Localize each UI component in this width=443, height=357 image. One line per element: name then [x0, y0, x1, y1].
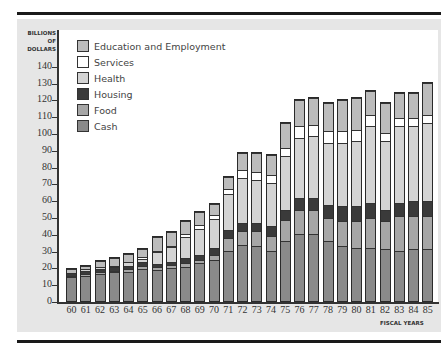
- bar-segment-cash: [138, 269, 147, 301]
- bar-segment-services: [409, 118, 418, 126]
- y-tick-label: 50: [22, 211, 52, 222]
- bar-83: [394, 92, 405, 302]
- bar-segment-cash: [124, 272, 133, 301]
- bar-61: [80, 265, 91, 302]
- legend-label: Housing: [94, 89, 133, 100]
- bar-segment-services: [324, 131, 333, 143]
- bar-segment-health: [409, 126, 418, 201]
- y-tick-label: 30: [22, 245, 52, 256]
- bar-segment-health: [153, 252, 162, 263]
- bar-segment-education-and-employment: [281, 123, 290, 148]
- legend-item-education: Education and Employment: [77, 38, 225, 54]
- bar-segment-cash: [110, 272, 119, 301]
- bar-segment-services: [352, 130, 361, 142]
- bar-segment-housing: [366, 203, 375, 218]
- bar-segment-food: [295, 210, 304, 235]
- bar-66: [152, 236, 163, 302]
- bar-segment-housing: [210, 248, 219, 255]
- bar-segment-food: [338, 221, 347, 246]
- y-tick-label: 130: [22, 77, 52, 88]
- bar-segment-education-and-employment: [366, 91, 375, 114]
- bar-segment-education-and-employment: [409, 93, 418, 118]
- bar-segment-cash: [96, 274, 105, 301]
- bar-segment-cash: [338, 246, 347, 301]
- bar-segment-cash: [281, 241, 290, 301]
- bar-segment-health: [295, 138, 304, 198]
- bar-80: [351, 97, 362, 302]
- bar-segment-services: [338, 131, 347, 143]
- bar-segment-education-and-employment: [267, 155, 276, 175]
- bar-68: [180, 220, 191, 302]
- legend-label: Education and Employment: [94, 41, 225, 52]
- bar-segment-education-and-employment: [295, 100, 304, 127]
- bar-segment-cash: [295, 234, 304, 301]
- bar-segment-education-and-employment: [309, 98, 318, 125]
- legend-label: Services: [94, 57, 134, 68]
- bar-segment-health: [224, 194, 233, 230]
- bar-segment-food: [409, 216, 418, 249]
- bar-78: [323, 102, 334, 302]
- bar-segment-education-and-employment: [224, 177, 233, 189]
- bar-segment-health: [181, 237, 190, 258]
- bar-segment-services: [238, 170, 247, 178]
- legend: Education and Employment Services Health…: [77, 38, 225, 134]
- bar-segment-food: [281, 220, 290, 242]
- y-tick-label: 40: [22, 228, 52, 239]
- bar-segment-health: [338, 143, 347, 206]
- y-tick-label: 20: [22, 261, 52, 272]
- bar-segment-food: [224, 238, 233, 251]
- bar-segment-services: [309, 125, 318, 137]
- bar-segment-education-and-employment: [338, 100, 347, 132]
- bar-segment-education-and-employment: [381, 103, 390, 133]
- bar-segment-cash: [153, 270, 162, 301]
- bar-segment-services: [366, 115, 375, 127]
- bar-segment-food: [309, 210, 318, 235]
- bar-segment-health: [267, 183, 276, 226]
- bar-segment-cash: [252, 246, 261, 301]
- bar-segment-cash: [395, 251, 404, 301]
- chart-figure: BILLIONS OF DOLLARS 01020304050607080901…: [0, 0, 443, 357]
- bar-segment-housing: [381, 210, 390, 222]
- bottom-rule: [17, 340, 441, 343]
- y-axis-title: BILLIONS OF DOLLARS: [16, 29, 56, 53]
- bar-segment-health: [195, 229, 204, 255]
- bar-segment-cash: [224, 251, 233, 301]
- bar-segment-cash: [81, 276, 90, 301]
- bar-segment-housing: [409, 201, 418, 216]
- legend-label: Health: [94, 73, 125, 84]
- bar-segment-housing: [224, 230, 233, 238]
- x-tick-label: 85: [420, 304, 436, 315]
- bar-65: [137, 248, 148, 302]
- bar-segment-services: [252, 172, 261, 180]
- bar-segment-food: [423, 216, 432, 249]
- bar-segment-housing: [352, 206, 361, 221]
- x-axis-line: [57, 302, 439, 304]
- bar-72: [237, 152, 248, 302]
- bar-segment-cash: [423, 249, 432, 301]
- bar-segment-housing: [238, 223, 247, 231]
- legend-item-cash: Cash: [77, 118, 225, 134]
- bar-segment-housing: [267, 226, 276, 236]
- y-tick-label: 60: [22, 194, 52, 205]
- bar-segment-health: [366, 126, 375, 203]
- y-tick-label: 80: [22, 161, 52, 172]
- bar-segment-housing: [423, 201, 432, 216]
- bar-60: [66, 268, 77, 302]
- y-tick-label: 70: [22, 177, 52, 188]
- bar-69: [194, 211, 205, 302]
- legend-swatch: [77, 104, 89, 116]
- bar-segment-cash: [238, 245, 247, 301]
- bar-segment-health: [324, 143, 333, 205]
- bar-segment-housing: [309, 198, 318, 210]
- bar-segment-education-and-employment: [167, 232, 176, 245]
- bar-segment-health: [352, 141, 361, 206]
- y-tick-label: 10: [22, 278, 52, 289]
- bar-segment-housing: [338, 206, 347, 221]
- bar-67: [166, 231, 177, 302]
- y-tick-label: 90: [22, 144, 52, 155]
- bar-segment-health: [167, 247, 176, 262]
- bar-segment-health: [210, 219, 219, 249]
- bar-segment-health: [381, 141, 390, 209]
- bar-segment-food: [238, 231, 247, 244]
- y-tick-label: 120: [22, 93, 52, 104]
